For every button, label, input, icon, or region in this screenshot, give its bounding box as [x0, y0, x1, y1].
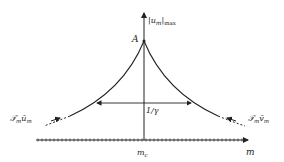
- left-decay-curve: [70, 41, 144, 116]
- x-axis-label: m: [246, 147, 255, 157]
- right-incoming-arrow: [227, 118, 236, 121]
- right-label: 𝒯mv̄m: [248, 114, 269, 124]
- diagram-canvas: |um|max A 1/γ mc m 𝒯mūm 𝒯mv̄m: [0, 0, 284, 162]
- center-label: mc: [137, 148, 148, 158]
- y-axis-label: |um|max: [148, 16, 177, 26]
- left-label: 𝒯mūm: [10, 114, 32, 124]
- left-decay-tail-dashed: [44, 116, 70, 126]
- peak-point: [143, 40, 146, 43]
- right-decay-tail-dashed: [218, 116, 245, 126]
- width-label: 1/γ: [146, 106, 159, 115]
- peak-label: A: [131, 34, 139, 44]
- right-decay-curve: [144, 41, 218, 116]
